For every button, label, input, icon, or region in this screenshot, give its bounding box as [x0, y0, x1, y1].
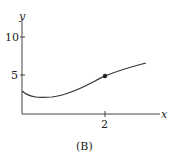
y-tick-label-10: 10: [5, 31, 19, 44]
curve-line: [22, 63, 146, 97]
x-tick-label-2: 2: [101, 118, 108, 131]
y-axis-label: y: [18, 10, 26, 23]
y-tick-label-5: 5: [11, 69, 18, 82]
chart: y x 10 5 2 (B): [0, 0, 173, 157]
x-axis-label: x: [161, 108, 168, 121]
figure-caption: (B): [76, 140, 93, 153]
marked-point: [103, 74, 107, 78]
